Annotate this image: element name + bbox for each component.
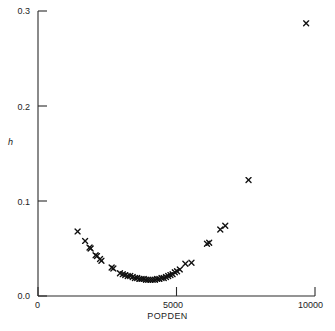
x-axis-title: POPDEN (0, 311, 335, 321)
y-tick-label-0: 0.3 (2, 6, 30, 16)
data-point-marker (83, 238, 88, 243)
x-tick-label-1: 5000 (163, 300, 183, 310)
axis-lines (38, 11, 315, 296)
y-axis-ticks (38, 11, 47, 296)
data-point-markers (75, 21, 309, 283)
y-tick-label-1: 0.2 (2, 102, 30, 112)
data-point-marker (223, 223, 228, 228)
data-point-marker (183, 261, 188, 266)
x-tick-label-2: 10000 (298, 300, 323, 310)
data-point-marker (304, 21, 309, 26)
y-axis-title: h (8, 137, 13, 147)
data-point-marker (99, 258, 104, 263)
y-tick-label-3: 0.0 (2, 291, 30, 301)
data-point-marker (189, 260, 194, 265)
scatter-plot-figure: 0.3 0.2 0.1 0.0 0 5000 10000 h POPDEN (0, 0, 335, 331)
x-tick-label-0: 0 (35, 300, 40, 310)
data-point-marker (75, 229, 80, 234)
y-tick-label-2: 0.1 (2, 197, 30, 207)
data-point-marker (218, 227, 223, 232)
plot-canvas (0, 0, 335, 331)
x-axis-ticks (38, 287, 315, 296)
data-point-marker (246, 178, 251, 183)
